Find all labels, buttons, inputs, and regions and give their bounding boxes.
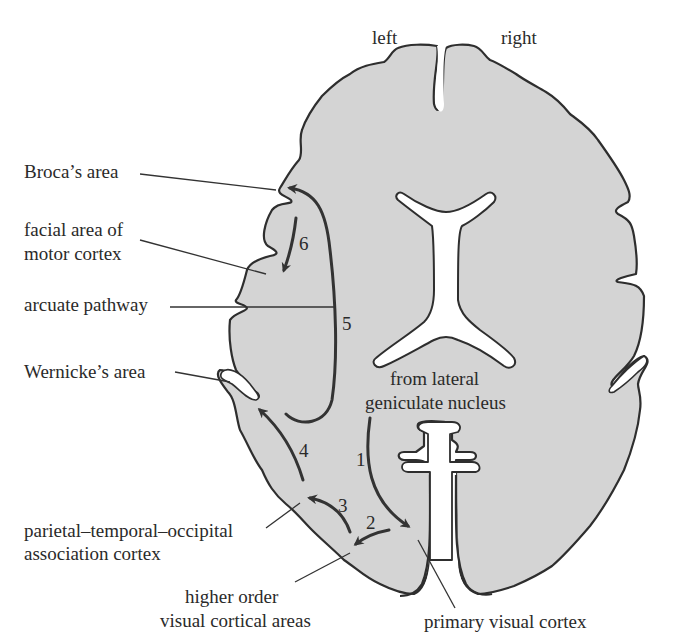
orientation-left-label: left	[372, 27, 398, 48]
leader-higher	[295, 553, 350, 582]
brain-language-pathway-diagram: left right Broca’s area facial area of m…	[0, 0, 677, 643]
step-number-3: 3	[338, 495, 348, 516]
step-number-4: 4	[299, 440, 309, 461]
label-primary-visual: primary visual cortex	[424, 611, 587, 632]
step-number-2: 2	[366, 512, 376, 533]
leader-broca	[140, 174, 276, 190]
label-facial-line1: facial area of	[24, 219, 124, 240]
label-lgn-line1: from lateral	[390, 368, 479, 389]
label-ptoa-line1: parietal–temporal–occipital	[24, 520, 233, 541]
orientation-right-label: right	[501, 27, 538, 48]
label-higher-line1: higher order	[185, 586, 279, 607]
label-broca: Broca’s area	[24, 161, 119, 182]
label-arcuate: arcuate pathway	[24, 294, 148, 315]
step-number-1: 1	[356, 449, 366, 470]
leader-facial	[140, 240, 266, 274]
label-higher-line2: visual cortical areas	[160, 610, 311, 631]
leader-ptoa	[266, 503, 300, 528]
label-lgn-line2: geniculate nucleus	[365, 392, 506, 413]
step-number-5: 5	[342, 313, 352, 334]
step-number-6: 6	[299, 233, 309, 254]
label-facial-line2: motor cortex	[24, 243, 122, 264]
label-wernicke: Wernicke’s area	[24, 361, 146, 382]
label-ptoa-line2: association cortex	[24, 543, 161, 564]
